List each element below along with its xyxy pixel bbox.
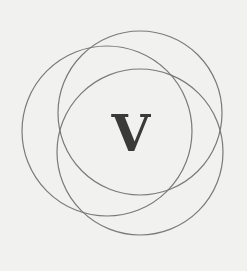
logo-letter: V [108, 104, 154, 164]
logo-canvas: V [0, 0, 247, 271]
